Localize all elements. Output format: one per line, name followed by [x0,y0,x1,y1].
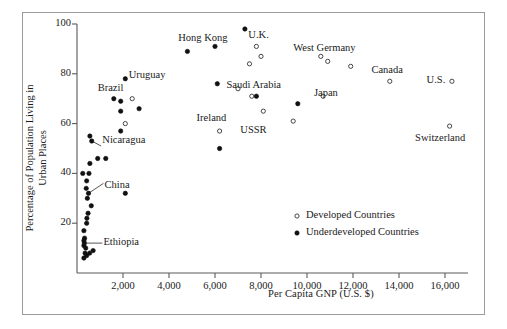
series-developed-countries-points [123,44,454,133]
data-point [90,139,94,143]
data-point [218,129,222,133]
data-point [254,94,258,98]
data-point-label: China [105,179,130,190]
data-point [119,99,123,103]
x-tick-label: 6,000 [203,280,227,291]
data-point [349,64,353,68]
y-tick-label: 80 [29,67,71,78]
data-point [85,196,89,200]
data-point [250,94,254,98]
y-tick-label: 60 [29,117,71,128]
x-tick-label: 10,000 [293,280,322,291]
data-point [84,179,88,183]
data-point [215,82,219,86]
data-point [112,97,116,101]
data-point [87,171,91,175]
data-point-label: Switzerland [415,132,465,143]
data-point-label: Uruguay [129,69,166,80]
leader-line [89,183,104,193]
data-point [82,228,86,232]
data-point-label: U.S. [427,74,446,85]
data-point [259,54,263,58]
data-point [123,191,127,195]
legend-marker [295,231,299,235]
data-point [326,59,330,63]
data-point [291,119,295,123]
x-tick-label: 12,000 [339,280,368,291]
data-point-label: U.K. [248,29,268,40]
x-tick-label: 8,000 [249,280,273,291]
data-point [119,109,123,113]
y-tick-label: 20 [29,216,71,227]
data-point-label: Hong Kong [178,32,227,43]
data-point [84,186,88,190]
legend-markers [295,214,299,235]
data-point [104,156,108,160]
data-point-label: West Germany [293,42,355,53]
data-point [213,44,217,48]
data-point [86,211,90,215]
x-tick-label: 14,000 [385,280,414,291]
data-point [123,77,127,81]
data-point [247,62,251,66]
legend-label: Developed Countries [306,209,395,220]
data-point-label: Canada [371,64,403,75]
x-tick-label: 4,000 [157,280,181,291]
data-point-label: Ethiopia [103,236,139,247]
data-point [296,101,300,105]
data-point-label: Japan [314,87,338,98]
data-point [84,221,88,225]
data-point [185,49,189,53]
data-point [85,216,89,220]
x-tick-label: 2,000 [111,280,135,291]
data-point [319,54,323,58]
data-point [137,106,141,110]
data-point [81,171,85,175]
data-point [89,204,93,208]
y-tick-label: 40 [29,166,71,177]
data-point-label: USSR [240,124,266,135]
y-axis-ticks [72,24,77,223]
data-point-label: Brazil [98,82,124,93]
data-point [119,129,123,133]
legend-marker [295,214,299,218]
legend-label: Underdeveloped Countries [306,226,419,237]
data-point [96,156,100,160]
data-point [130,97,134,101]
data-point [91,248,95,252]
data-point [86,191,90,195]
data-point [88,161,92,165]
data-point [450,79,454,83]
data-point [217,146,221,150]
data-point-label: Ireland [197,112,227,123]
data-point [254,44,258,48]
data-point [261,109,265,113]
data-point [388,79,392,83]
data-point-label: Saudi Arabia [227,79,282,90]
data-point-label: Nicaragua [102,134,145,145]
data-point [82,236,86,240]
data-point [123,122,127,126]
data-point [448,124,452,128]
data-point [243,27,247,31]
y-tick-label: 100 [29,17,71,28]
x-axis-ticks [123,273,445,278]
figure-container: Percentage of Population Living in Urban… [0,0,507,329]
x-tick-label: 16,000 [431,280,460,291]
data-point [88,134,92,138]
